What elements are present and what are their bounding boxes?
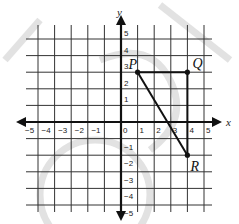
x-axis-label: x — [225, 116, 231, 128]
y-tick-label: −2 — [124, 159, 134, 168]
x-tick-label: 4 — [189, 126, 194, 135]
y-axis-label: y — [116, 6, 122, 18]
y-tick-label: −5 — [124, 209, 134, 218]
y-tick-label: 2 — [124, 79, 129, 88]
x-tick-label: −5 — [25, 126, 35, 135]
y-tick-label: 5 — [124, 29, 129, 38]
coordinate-plane-diagram: xy −5−4−3−2−101234554321−1−2−3−4−5 PQR — [0, 0, 239, 224]
y-tick-label: −1 — [124, 143, 134, 152]
watermark — [5, 5, 230, 224]
x-tick-label: 1 — [140, 126, 145, 135]
point-label-Q: Q — [192, 56, 202, 71]
x-tick-label: −2 — [75, 126, 85, 135]
arrow-right-icon — [212, 117, 222, 127]
x-tick-label: 5 — [206, 126, 211, 135]
y-tick-label: −4 — [124, 192, 134, 201]
y-tick-label: 4 — [124, 46, 129, 55]
y-tick-label: −3 — [124, 176, 134, 185]
x-tick-label: −3 — [58, 126, 68, 135]
x-tick-label: 2 — [156, 126, 161, 135]
point-label-R: R — [189, 159, 199, 174]
x-tick-label: −4 — [42, 126, 52, 135]
y-tick-label: 1 — [124, 95, 129, 104]
point-Q — [185, 70, 190, 75]
point-R — [185, 153, 190, 158]
point-label-P: P — [128, 57, 138, 72]
x-tick-label: −1 — [91, 126, 101, 135]
x-tick-label: 0 — [123, 126, 128, 135]
